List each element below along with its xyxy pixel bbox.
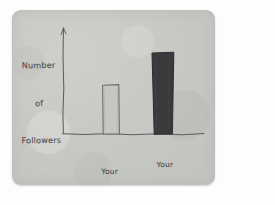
bar-2-category-label: Your business after hiring me	[137, 139, 194, 185]
y-axis-label-line-3: Followers	[21, 134, 83, 147]
bar-1-category-label: Your business now	[85, 147, 135, 185]
photo-frame: Number of Followers Your business now Yo…	[0, 0, 275, 205]
paper-sheet: Number of Followers Your business now Yo…	[12, 10, 215, 185]
hand-drawn-bar-chart: Number of Followers Your business now Yo…	[12, 10, 215, 185]
bar-2-label-line-1: Your	[138, 160, 192, 172]
y-axis-label-line-1: Number	[22, 59, 83, 72]
bar-your-business-after-hiring-me	[152, 52, 174, 134]
y-axis-label-line-2: of	[35, 96, 83, 109]
bar-1-label-line-1: Your	[86, 167, 134, 178]
y-axis-label: Number of Followers	[20, 34, 83, 172]
bar-your-business-now	[103, 85, 120, 135]
x-axis	[63, 134, 205, 135]
